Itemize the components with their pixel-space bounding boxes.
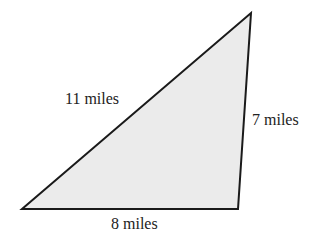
triangle-diagram: 11 miles 7 miles 8 miles — [0, 0, 331, 247]
side-label-8-miles: 8 miles — [111, 216, 158, 232]
side-label-11-miles: 11 miles — [65, 91, 119, 107]
side-label-7-miles: 7 miles — [252, 112, 299, 128]
